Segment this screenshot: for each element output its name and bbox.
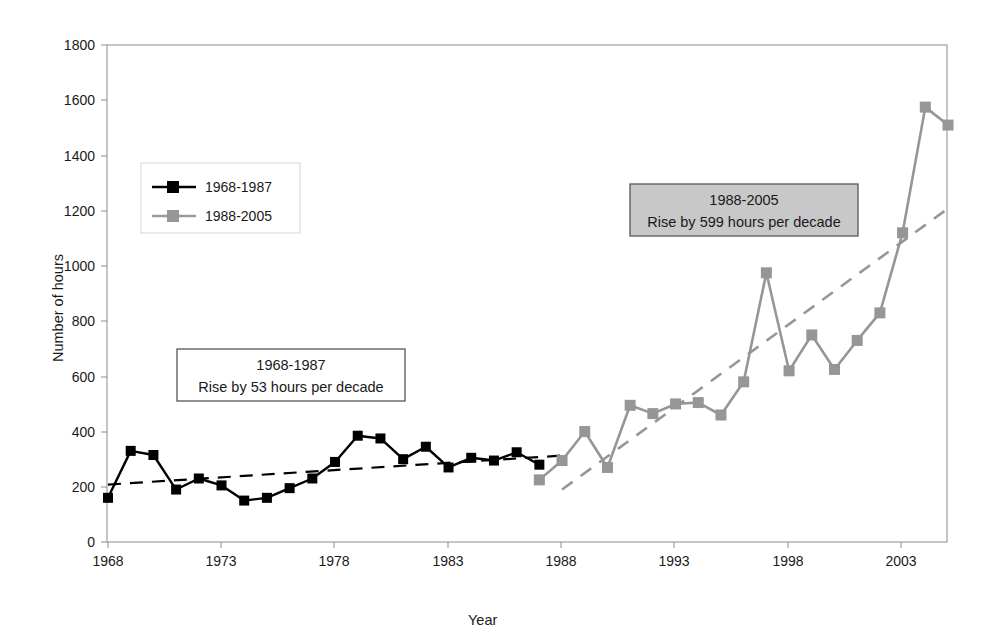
data-point-marker[interactable]	[307, 473, 317, 483]
annotation-line1: 1968-1987	[256, 357, 325, 373]
data-point-marker[interactable]	[761, 267, 772, 278]
y-tick-label: 800	[72, 313, 96, 329]
data-point-marker[interactable]	[579, 426, 590, 437]
x-tick-1993: 1993	[658, 542, 689, 569]
data-point-marker[interactable]	[920, 102, 931, 113]
x-tick-1968: 1968	[92, 542, 123, 569]
legend-entry-1988-2005[interactable]: 1988-2005	[152, 208, 272, 224]
x-tick-label: 1983	[432, 553, 463, 569]
y-tick-1600: 1600	[64, 92, 107, 108]
data-point-marker[interactable]	[534, 460, 544, 470]
data-point-marker[interactable]	[625, 400, 636, 411]
x-tick-label: 1988	[545, 553, 576, 569]
x-tick-1973: 1973	[205, 542, 236, 569]
data-point-marker[interactable]	[943, 120, 954, 131]
x-tick-label: 1973	[205, 553, 236, 569]
data-point-marker[interactable]	[398, 454, 408, 464]
data-point-marker[interactable]	[489, 456, 499, 466]
y-tick-200: 200	[72, 479, 107, 495]
x-tick-label: 2003	[885, 553, 916, 569]
data-point-marker[interactable]	[217, 480, 227, 490]
annotation-line1: 1988-2005	[709, 192, 778, 208]
y-tick-1800: 1800	[64, 37, 107, 53]
x-axis: 1968 1973 1978 1983 1988 1993	[92, 542, 916, 569]
data-point-marker[interactable]	[353, 431, 363, 441]
y-tick-label: 0	[87, 534, 95, 550]
y-tick-label: 1600	[64, 92, 95, 108]
data-point-marker[interactable]	[738, 376, 749, 387]
data-point-marker[interactable]	[715, 409, 726, 420]
data-point-marker[interactable]	[670, 398, 681, 409]
y-tick-1200: 1200	[64, 203, 107, 219]
y-tick-label: 1200	[64, 203, 95, 219]
data-point-marker[interactable]	[806, 329, 817, 340]
y-tick-label: 600	[72, 369, 96, 385]
y-tick-1400: 1400	[64, 148, 107, 164]
data-point-marker[interactable]	[262, 493, 272, 503]
data-point-marker[interactable]	[602, 462, 613, 473]
data-point-marker[interactable]	[693, 397, 704, 408]
y-tick-label: 1400	[64, 148, 95, 164]
y-tick-1000: 1000	[64, 258, 107, 274]
x-tick-1988: 1988	[545, 542, 576, 569]
x-tick-label: 1993	[658, 553, 689, 569]
data-point-marker[interactable]	[103, 493, 113, 503]
y-axis: 0 200 400 600 800 1000	[64, 37, 107, 550]
data-point-marker[interactable]	[444, 462, 454, 472]
data-point-marker[interactable]	[126, 446, 136, 456]
x-tick-label: 1978	[318, 553, 349, 569]
data-point-marker[interactable]	[874, 307, 885, 318]
data-point-marker[interactable]	[647, 408, 658, 419]
data-point-marker[interactable]	[148, 450, 158, 460]
data-point-marker[interactable]	[897, 227, 908, 238]
y-axis-title: Number of hours	[50, 228, 66, 388]
x-tick-label: 1968	[92, 553, 123, 569]
plot-area-frame	[107, 45, 947, 542]
y-tick-800: 800	[72, 313, 107, 329]
data-point-marker[interactable]	[285, 483, 295, 493]
chart-legend[interactable]: 1968-1987 1988-2005	[141, 163, 300, 233]
data-point-marker[interactable]	[829, 364, 840, 375]
data-point-marker[interactable]	[375, 433, 385, 443]
y-tick-label: 1000	[64, 258, 95, 274]
legend-label: 1988-2005	[205, 208, 272, 224]
y-tick-label: 1800	[64, 37, 95, 53]
data-point-marker[interactable]	[852, 335, 863, 346]
y-tick-label: 400	[72, 424, 96, 440]
data-point-marker[interactable]	[421, 442, 431, 452]
y-tick-0: 0	[87, 534, 107, 550]
annotation-1988-2005: 1988-2005 Rise by 599 hours per decade	[630, 184, 858, 236]
annotation-1968-1987: 1968-1987 Rise by 53 hours per decade	[177, 349, 405, 401]
legend-entry-1968-1987[interactable]: 1968-1987	[152, 179, 272, 195]
x-tick-1998: 1998	[772, 542, 803, 569]
x-axis-title: Year	[468, 612, 497, 628]
x-tick-1978: 1978	[318, 542, 349, 569]
x-tick-2003: 2003	[885, 542, 916, 569]
x-tick-1983: 1983	[432, 542, 463, 569]
data-point-marker[interactable]	[239, 496, 249, 506]
y-tick-600: 600	[72, 369, 107, 385]
data-point-marker[interactable]	[784, 365, 795, 376]
x-tick-label: 1998	[772, 553, 803, 569]
y-tick-label: 200	[72, 479, 96, 495]
legend-label: 1968-1987	[205, 179, 272, 195]
annotation-line2: Rise by 599 hours per decade	[647, 214, 840, 230]
data-point-marker[interactable]	[466, 453, 476, 463]
legend-marker-square	[167, 181, 179, 193]
data-point-marker[interactable]	[330, 457, 340, 467]
legend-marker-square	[167, 210, 179, 222]
data-point-marker[interactable]	[557, 455, 568, 466]
data-point-marker[interactable]	[512, 447, 522, 457]
annotation-line2: Rise by 53 hours per decade	[198, 379, 383, 395]
data-point-marker[interactable]	[194, 473, 204, 483]
data-point-marker[interactable]	[171, 485, 181, 495]
chart-container: 0 200 400 600 800 1000	[0, 0, 988, 642]
line-chart: 0 200 400 600 800 1000	[0, 0, 988, 642]
data-point-marker[interactable]	[534, 474, 545, 485]
y-tick-400: 400	[72, 424, 107, 440]
